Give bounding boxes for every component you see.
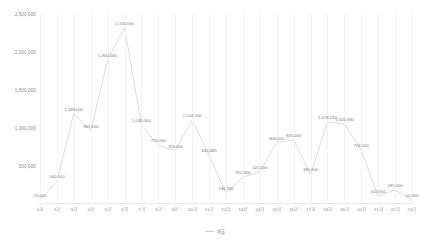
x-axis-tick-label: 13기 bbox=[238, 206, 247, 212]
data-point-label: 706,160 bbox=[354, 143, 369, 148]
x-axis: 1기2기3기4기5기6기7기8기9기10기11기12기13기14기15기16기1… bbox=[40, 206, 412, 220]
gridline bbox=[192, 14, 193, 204]
gridline bbox=[260, 14, 261, 204]
data-point-label: 50,000 bbox=[34, 193, 47, 198]
data-point-label: 770,000 bbox=[151, 138, 166, 143]
gridline bbox=[108, 14, 109, 204]
data-point-label: 1,056,690 bbox=[335, 117, 354, 122]
gridline bbox=[91, 14, 92, 204]
y-axis-tick-label: 2,000,000 bbox=[15, 50, 36, 55]
data-point-label: 703,000 bbox=[168, 144, 183, 149]
chart-legend: 매출 bbox=[0, 228, 430, 234]
x-axis-tick-label: 1기 bbox=[37, 206, 43, 212]
gridline bbox=[327, 14, 328, 204]
x-axis-tick-label: 14기 bbox=[255, 206, 264, 212]
gridline bbox=[378, 14, 379, 204]
chart-container: 500,0001,000,0001,500,0002,000,0002,500,… bbox=[0, 0, 430, 247]
data-point-label: 1,040,000 bbox=[132, 118, 151, 123]
x-axis-tick-label: 3기 bbox=[71, 206, 77, 212]
y-axis: 500,0001,000,0001,500,0002,000,0002,500,… bbox=[0, 14, 36, 204]
gridline bbox=[175, 14, 176, 204]
x-axis-tick-label: 19기 bbox=[340, 206, 349, 212]
x-axis-tick-label: 21기 bbox=[374, 206, 383, 212]
data-point-label: 806,000 bbox=[269, 136, 284, 141]
x-axis-tick-label: 17기 bbox=[306, 206, 315, 212]
data-point-label: 425,500 bbox=[252, 165, 267, 170]
data-point-label: 960,000 bbox=[83, 124, 98, 129]
gridline bbox=[226, 14, 227, 204]
y-axis-tick-label: 1,000,000 bbox=[15, 126, 36, 131]
gridline bbox=[158, 14, 159, 204]
data-point-label: 352,400 bbox=[235, 170, 250, 175]
x-axis-tick-label: 4기 bbox=[87, 206, 93, 212]
gridline bbox=[294, 14, 295, 204]
x-axis-tick-label: 15기 bbox=[272, 206, 281, 212]
gridline bbox=[395, 14, 396, 204]
data-point-label: 146,700 bbox=[218, 186, 233, 191]
gridline bbox=[125, 14, 126, 204]
x-axis-tick-label: 5기 bbox=[104, 206, 110, 212]
x-axis-tick-label: 2기 bbox=[54, 206, 60, 212]
x-axis-tick-label: 9기 bbox=[172, 206, 178, 212]
data-point-label: 1,900,000 bbox=[98, 53, 117, 58]
data-point-label: 1,104,000 bbox=[183, 113, 202, 118]
data-point-label: 1,188,000 bbox=[64, 107, 83, 112]
gridline bbox=[277, 14, 278, 204]
legend-line-swatch bbox=[205, 231, 214, 232]
x-axis-tick-label: 6기 bbox=[121, 206, 127, 212]
x-axis-tick-label: 22기 bbox=[391, 206, 400, 212]
data-point-label: 50,000 bbox=[406, 193, 419, 198]
data-point-label: 300,000 bbox=[49, 174, 64, 179]
data-point-label: 845,000 bbox=[286, 133, 301, 138]
x-axis-tick-label: 23기 bbox=[408, 206, 417, 212]
x-axis-tick-label: 18기 bbox=[323, 206, 332, 212]
gridline bbox=[141, 14, 142, 204]
gridline bbox=[311, 14, 312, 204]
data-point-label: 640,680 bbox=[201, 148, 216, 153]
plot-area: 50,000300,0001,188,000960,0001,900,0002,… bbox=[40, 14, 412, 204]
y-axis-tick-label: 2,500,000 bbox=[15, 12, 36, 17]
data-point-label: 102,000 bbox=[371, 189, 386, 194]
gridline bbox=[412, 14, 413, 204]
data-point-label: 390,000 bbox=[303, 167, 318, 172]
x-axis-tick-label: 10기 bbox=[188, 206, 197, 212]
x-axis-tick-label: 16기 bbox=[289, 206, 298, 212]
gridline bbox=[243, 14, 244, 204]
x-axis-tick-label: 7기 bbox=[138, 206, 144, 212]
gridline bbox=[344, 14, 345, 204]
gridline bbox=[209, 14, 210, 204]
x-axis-tick-label: 20기 bbox=[357, 206, 366, 212]
data-point-label: 185,000 bbox=[387, 183, 402, 188]
gridline bbox=[40, 14, 41, 204]
y-axis-tick-label: 1,500,000 bbox=[15, 88, 36, 93]
data-point-label: 2,320,000 bbox=[115, 21, 134, 26]
data-point-label: 1,078,130 bbox=[318, 115, 337, 120]
y-axis-tick-label: 500,000 bbox=[19, 164, 36, 169]
gridline bbox=[361, 14, 362, 204]
x-axis-tick-label: 8기 bbox=[155, 206, 161, 212]
x-axis-tick-label: 12기 bbox=[222, 206, 231, 212]
x-axis-tick-label: 11기 bbox=[205, 206, 214, 212]
legend-item-label: 매출 bbox=[217, 228, 225, 234]
